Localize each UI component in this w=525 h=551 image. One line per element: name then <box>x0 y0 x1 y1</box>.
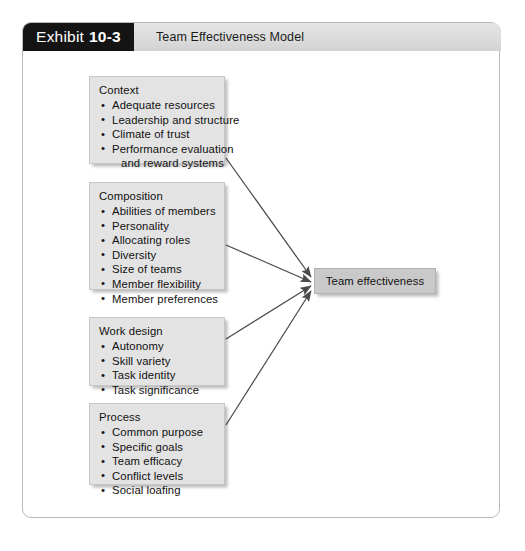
factor-list-item: Task identity <box>99 368 215 383</box>
factor-item-list: Common purposeSpecific goalsTeam efficac… <box>99 425 215 498</box>
factor-title: Process <box>99 410 215 425</box>
factor-list-item: Diversity <box>99 248 215 263</box>
outcome-label: Team effectiveness <box>326 275 424 287</box>
factor-list-item: Social loafing <box>99 483 215 498</box>
exhibit-number: 10-3 <box>89 28 121 46</box>
factor-list-item: Member flexibility <box>99 277 215 292</box>
factor-list-item: Adequate resources <box>99 98 215 113</box>
factor-list-item: Task significance <box>99 383 215 398</box>
factor-list-item: Team efficacy <box>99 454 215 469</box>
factor-list-item: Climate of trust <box>99 127 215 142</box>
factor-list-item: Conflict levels <box>99 469 215 484</box>
exhibit-title: Team Effectiveness Model <box>156 30 304 44</box>
factor-box-work-design: Work designAutonomySkill varietyTask ide… <box>89 317 225 386</box>
factor-list-item: Specific goals <box>99 440 215 455</box>
diagram-canvas: ContextAdequate resourcesLeadership and … <box>23 51 501 518</box>
factor-list-item: Common purpose <box>99 425 215 440</box>
factor-title: Work design <box>99 324 215 339</box>
factor-list-item: Personality <box>99 219 215 234</box>
factor-item-list: Abilities of membersPersonalityAllocatin… <box>99 204 215 306</box>
factor-list-item: Abilities of members <box>99 204 215 219</box>
factor-box-context: ContextAdequate resourcesLeadership and … <box>89 76 225 164</box>
outcome-box-team-effectiveness: Team effectiveness <box>314 268 436 294</box>
factor-box-composition: CompositionAbilities of membersPersonali… <box>89 182 225 290</box>
factor-title: Composition <box>99 189 215 204</box>
factor-list-item: Size of teams <box>99 262 215 277</box>
exhibit-number-badge: Exhibit 10-3 <box>23 23 134 51</box>
factor-title: Context <box>99 83 215 98</box>
exhibit-frame: Exhibit 10-3 Team Effectiveness Model Co… <box>22 22 500 518</box>
exhibit-label: Exhibit <box>36 28 84 46</box>
arrow-work-design <box>226 286 311 339</box>
factor-list-item: Autonomy <box>99 339 215 354</box>
factor-box-process: ProcessCommon purposeSpecific goalsTeam … <box>89 403 225 485</box>
factor-item-list: AutonomySkill varietyTask identityTask s… <box>99 339 215 397</box>
factor-list-item: Member preferences <box>99 292 215 307</box>
factor-list-item: Performance evaluation <box>99 142 215 157</box>
factor-list-item: Allocating roles <box>99 233 215 248</box>
factor-list-item: Skill variety <box>99 354 215 369</box>
exhibit-title-bar: Team Effectiveness Model <box>134 23 501 51</box>
factor-item-list: Adequate resourcesLeadership and structu… <box>99 98 215 171</box>
arrow-composition <box>226 245 311 282</box>
factor-list-item: Leadership and structure <box>99 113 215 128</box>
exhibit-header: Exhibit 10-3 Team Effectiveness Model <box>23 23 501 51</box>
arrow-context <box>226 158 311 277</box>
arrow-process <box>226 291 311 425</box>
factor-list-item: and reward systems <box>99 156 215 171</box>
